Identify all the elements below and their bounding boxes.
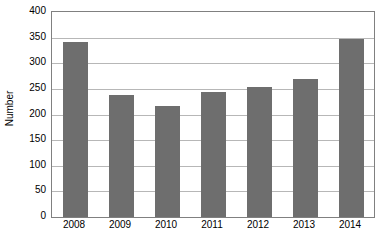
x-tick-label: 2012	[235, 219, 281, 239]
bar[interactable]	[339, 39, 364, 217]
y-tick-label: 300	[18, 57, 46, 67]
bar-slot	[190, 12, 236, 217]
y-tick-label: 350	[18, 32, 46, 42]
plot-area	[51, 11, 375, 218]
bar[interactable]	[155, 106, 180, 217]
bar-chart: Number 050100150200250300350400 20082009…	[0, 0, 390, 246]
y-tick-label: 100	[18, 160, 46, 170]
y-tick-label: 250	[18, 83, 46, 93]
bar[interactable]	[63, 42, 88, 217]
x-tick-label: 2014	[327, 219, 373, 239]
x-tick-label: 2010	[143, 219, 189, 239]
y-axis-tick-labels: 050100150200250300350400	[18, 11, 46, 216]
bar[interactable]	[201, 92, 226, 217]
x-tick-label: 2013	[281, 219, 327, 239]
bar[interactable]	[293, 79, 318, 217]
x-axis-tick-labels: 2008200920102011201220132014	[51, 219, 373, 239]
x-tick-label: 2009	[97, 219, 143, 239]
bar-slot	[328, 12, 374, 217]
y-tick-label: 400	[18, 6, 46, 16]
bar[interactable]	[109, 95, 134, 217]
bar-slot	[98, 12, 144, 217]
bar-slot	[282, 12, 328, 217]
bar-slot	[236, 12, 282, 217]
bar-slot	[144, 12, 190, 217]
bar[interactable]	[247, 87, 272, 217]
bars-layer	[52, 12, 374, 217]
x-tick-label: 2008	[51, 219, 97, 239]
x-tick-label: 2011	[189, 219, 235, 239]
y-tick-label: 150	[18, 134, 46, 144]
y-tick-label: 50	[18, 185, 46, 195]
y-tick-label: 0	[18, 211, 46, 221]
bar-slot	[52, 12, 98, 217]
y-axis-title-label: Number	[5, 90, 16, 126]
y-axis-title: Number	[0, 0, 20, 216]
y-tick-label: 200	[18, 109, 46, 119]
